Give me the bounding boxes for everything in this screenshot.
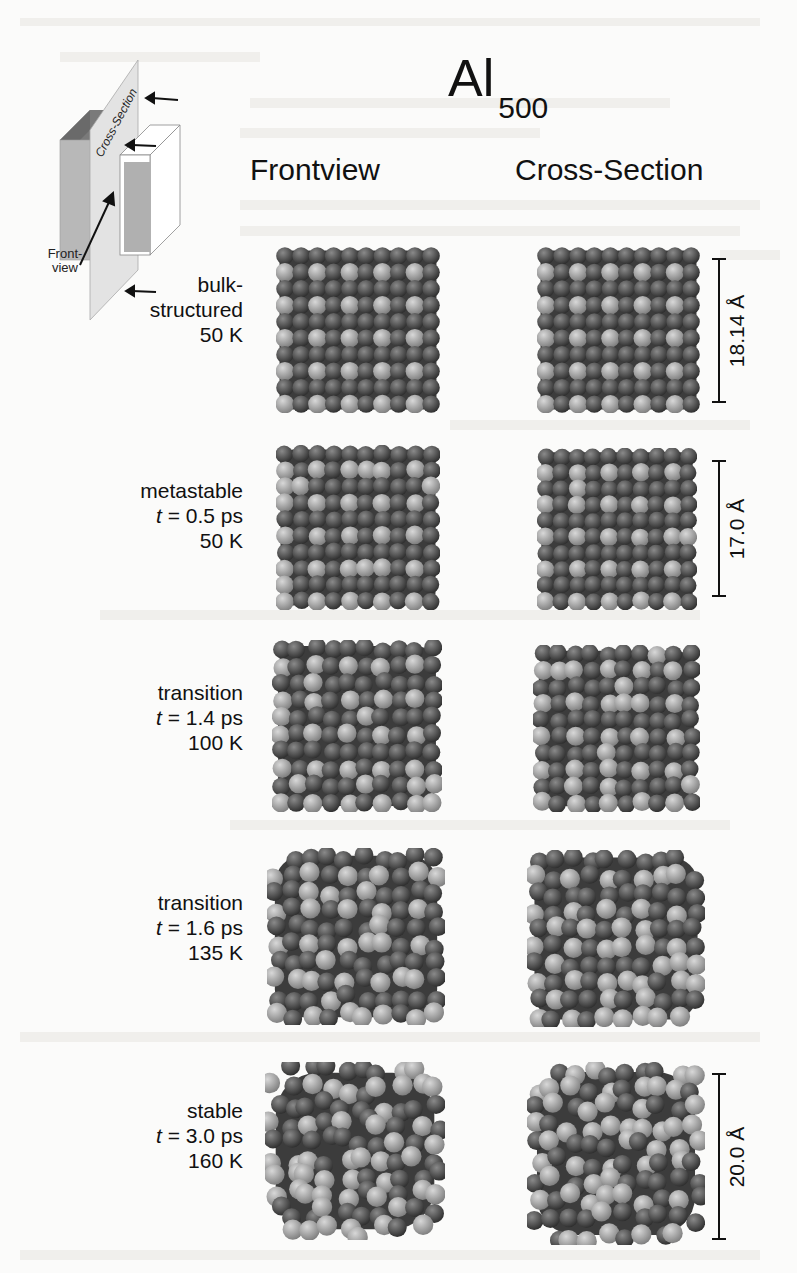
atom-dark	[664, 480, 681, 497]
atom-light	[601, 329, 619, 347]
atom-light	[631, 496, 649, 514]
atom-dark	[617, 480, 634, 497]
atom-dark	[649, 512, 666, 529]
atom-dark	[357, 280, 374, 297]
atom-dark	[392, 867, 411, 886]
atom-dark	[422, 494, 439, 511]
atom-dark	[422, 395, 439, 412]
atom-dark	[529, 918, 548, 937]
atom-dark	[267, 917, 286, 936]
atom-dark	[618, 247, 635, 264]
atom-light	[406, 263, 425, 282]
atom-light	[634, 329, 652, 347]
atom-dark	[553, 528, 570, 545]
atom-dark	[585, 594, 602, 611]
atom-dark	[276, 247, 293, 264]
atom-light	[601, 263, 619, 281]
atom-light	[308, 460, 327, 479]
atom-light	[308, 329, 327, 348]
atom-dark	[427, 968, 445, 987]
atom-light	[308, 494, 327, 513]
atom-dark	[325, 363, 342, 380]
atom-dark	[553, 363, 570, 380]
atom-dark	[683, 679, 700, 697]
atom-light	[634, 296, 652, 314]
atom-dark	[648, 1173, 667, 1192]
atom-dark	[570, 313, 587, 330]
atom-dark	[287, 741, 305, 759]
column-header-cross-section: Cross-Section	[515, 153, 703, 187]
atom-light	[601, 296, 619, 314]
atom-dark	[582, 744, 600, 762]
atom-dark	[629, 1132, 648, 1151]
atom-dark	[272, 674, 290, 692]
atom-light	[569, 329, 587, 347]
atom-light	[406, 296, 425, 315]
atom-dark	[613, 1202, 632, 1221]
atom-dark	[543, 889, 562, 908]
atom-dark	[543, 935, 562, 954]
atom-dark	[649, 745, 667, 763]
atom-dark	[422, 593, 439, 610]
atom-light	[666, 362, 684, 380]
atom-light	[634, 263, 652, 281]
atom-dark	[422, 280, 439, 297]
atom-light	[338, 866, 358, 886]
atom-dark	[389, 592, 406, 609]
atom-dark	[680, 496, 697, 513]
atom-light	[670, 1007, 690, 1027]
scale-bar-label: 17.0 Å	[725, 498, 749, 559]
atom-light	[614, 693, 633, 712]
atom-light	[291, 477, 310, 496]
atom-light	[568, 527, 586, 545]
atom-light	[591, 1201, 611, 1221]
label-text: = 3.0 ps	[162, 1124, 243, 1147]
atom-light	[340, 460, 359, 479]
atom-dark	[665, 646, 683, 664]
atom-light	[373, 1004, 393, 1024]
label-text: 50 K	[200, 323, 243, 346]
atom-dark	[357, 395, 374, 412]
atom-dark	[406, 510, 423, 527]
atom-dark	[586, 313, 603, 330]
atom-dark	[407, 576, 424, 593]
atom-light	[316, 950, 336, 970]
atom-dark	[276, 346, 293, 363]
atom-light	[299, 1220, 319, 1240]
atom-dark	[584, 560, 601, 577]
atom-light	[685, 1095, 705, 1115]
atom-dark	[308, 477, 325, 494]
atom-dark	[648, 677, 666, 695]
atom-light	[406, 395, 425, 413]
label-line: 50 K	[140, 528, 243, 553]
label-line: stable	[156, 1098, 243, 1123]
atom-dark	[618, 850, 637, 869]
atom-dark	[666, 379, 683, 396]
atom-dark	[680, 561, 697, 578]
atom-dark	[650, 330, 667, 347]
atom-light	[540, 1166, 560, 1186]
atom-light	[560, 869, 580, 889]
label-line: bulk-	[150, 272, 243, 297]
atom-light	[634, 362, 652, 380]
atom-dark	[292, 395, 309, 412]
atom-dark	[374, 643, 392, 661]
atom-dark	[586, 247, 603, 264]
atom-dark	[390, 313, 407, 330]
atom-dark	[685, 871, 704, 890]
atom-light	[578, 1102, 598, 1122]
atom-dark	[325, 379, 342, 396]
atom-dark	[617, 528, 634, 545]
atom-light	[412, 1116, 432, 1136]
atom-dark	[538, 545, 555, 562]
atom-dark	[664, 576, 681, 593]
atom-dark	[309, 575, 326, 592]
frontview-cluster	[265, 1062, 445, 1240]
atom-dark	[292, 330, 309, 347]
atom-dark	[537, 247, 554, 264]
atom-dark	[423, 560, 440, 577]
label-text: 135 K	[188, 941, 243, 964]
atom-light	[337, 724, 356, 743]
atom-dark	[680, 480, 697, 497]
atom-dark	[586, 363, 603, 380]
